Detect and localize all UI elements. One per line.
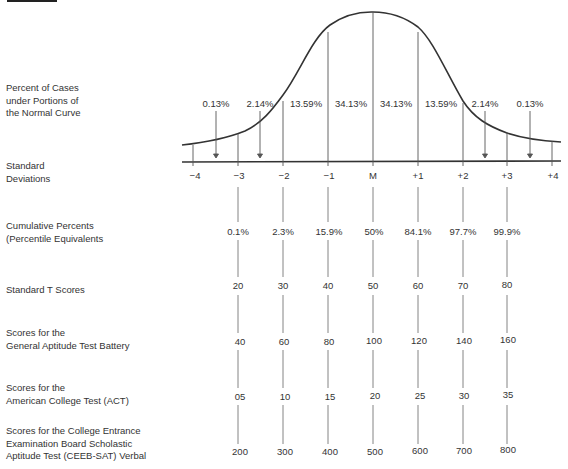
sd-tick-label: +1	[413, 170, 424, 181]
cumulative-percent-value: 50%	[364, 226, 383, 237]
segment-percent: 0.13%	[203, 98, 230, 109]
cumulative-percent-value: 0.1%	[227, 226, 249, 237]
label-t-scores: Standard T Scores	[6, 284, 85, 297]
ceeb-sat-score-value: 200	[232, 446, 248, 457]
sd-tick-label: −1	[324, 170, 335, 181]
segment-percent: 13.59%	[425, 98, 457, 109]
cumulative-percent-value: 2.3%	[272, 226, 294, 237]
act-score-value: 05	[235, 391, 246, 402]
sd-lines	[193, 12, 552, 166]
sd-tick-label: −4	[190, 170, 201, 181]
gatb-score-value: 40	[235, 336, 246, 347]
sd-tick-label: M	[369, 170, 377, 181]
ceeb-sat-score-value: 300	[277, 446, 293, 457]
t-score-value: 60	[413, 280, 424, 291]
t-score-value: 50	[368, 280, 379, 291]
gatb-score-value: 100	[366, 335, 382, 346]
segment-percent: 2.14%	[472, 98, 499, 109]
segment-percent: 34.13%	[335, 98, 367, 109]
act-score-value: 15	[325, 391, 336, 402]
ceeb-sat-score-value: 800	[500, 444, 516, 455]
ceeb-sat-score-value: 500	[367, 446, 383, 457]
segment-percent: 2.14%	[247, 98, 274, 109]
t-score-value: 40	[323, 280, 334, 291]
label-percent-cases: Percent of Cases under Portions of the N…	[6, 82, 80, 120]
act-score-value: 10	[280, 391, 291, 402]
cumulative-percent-value: 15.9%	[316, 226, 343, 237]
baseline-axis	[182, 161, 561, 162]
sd-tick-label: −3	[234, 170, 245, 181]
gatb-score-value: 160	[500, 334, 516, 345]
ceeb-sat-score-value: 600	[412, 445, 428, 456]
cumulative-percent-value: 99.9%	[494, 226, 521, 237]
sd-tick-label: −2	[279, 170, 290, 181]
sd-tick-label: +3	[502, 170, 513, 181]
label-cumulative-percents: Cumulative Percents (Percentile Equivale…	[6, 220, 103, 245]
bell-curve	[182, 12, 561, 145]
sd-tick-label: +2	[458, 170, 469, 181]
label-ceeb-sat: Scores for the College Entrance Examinat…	[6, 425, 146, 463]
act-score-value: 25	[415, 390, 426, 401]
act-score-value: 35	[503, 389, 514, 400]
sd-tick-label: +4	[548, 170, 559, 181]
segment-percent: 34.13%	[380, 98, 412, 109]
ceeb-sat-score-value: 400	[322, 446, 338, 457]
t-score-value: 20	[233, 280, 244, 291]
t-score-value: 70	[458, 280, 469, 291]
cumulative-percent-value: 97.7%	[450, 226, 477, 237]
ceeb-sat-score-value: 700	[456, 445, 472, 456]
t-score-value: 30	[278, 280, 289, 291]
gatb-score-value: 120	[411, 335, 427, 346]
segment-percent: 0.13%	[517, 98, 544, 109]
gatb-score-value: 140	[456, 335, 472, 346]
label-act: Scores for the American College Test (AC…	[6, 382, 129, 407]
gatb-score-value: 80	[324, 336, 335, 347]
segment-percent: 13.59%	[290, 98, 322, 109]
label-standard-deviations: Standard Deviations	[6, 160, 50, 185]
cumulative-percent-value: 84.1%	[405, 226, 432, 237]
t-score-value: 80	[502, 279, 513, 290]
gatb-score-value: 60	[279, 336, 290, 347]
act-score-value: 30	[459, 390, 470, 401]
label-gatb: Scores for the General Aptitude Test Bat…	[6, 327, 129, 352]
act-score-value: 20	[370, 390, 381, 401]
